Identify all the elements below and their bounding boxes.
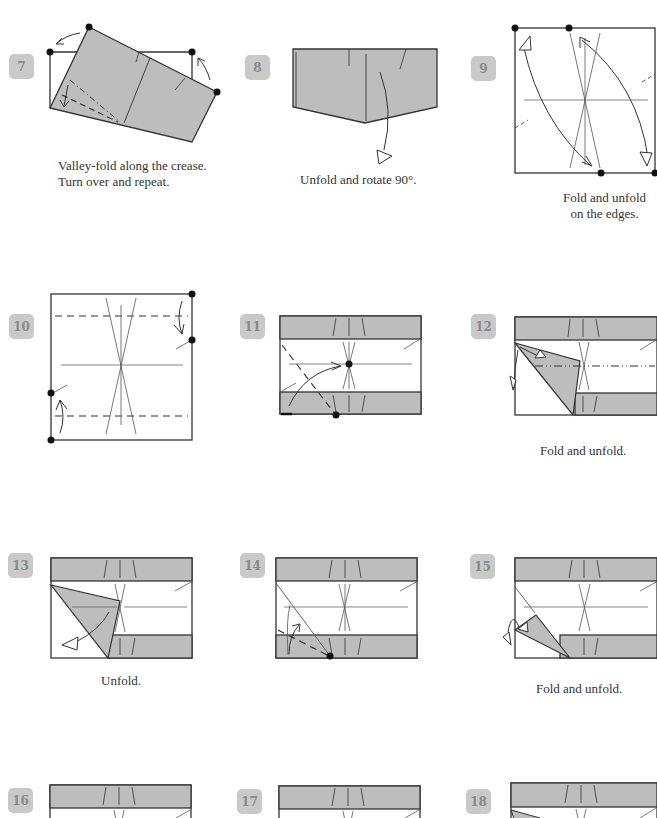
step-caption: Fold and unfold on the edges. [563, 190, 646, 222]
step-number-badge: 10 [9, 314, 34, 339]
caption-line: Unfold. [101, 673, 141, 689]
caption-line: on the edges. [563, 206, 646, 222]
step-caption: Unfold and rotate 90°. [300, 172, 416, 188]
step-number-badge: 15 [470, 554, 495, 579]
step-number-badge: 9 [471, 56, 496, 81]
caption-line: Unfold and rotate 90°. [300, 172, 416, 188]
step-number-badge: 11 [240, 314, 265, 339]
caption-line: Fold and unfold [563, 190, 646, 206]
step-caption: Fold and unfold. [536, 681, 622, 697]
caption-line: Fold and unfold. [540, 443, 626, 459]
step-number-badge: 16 [8, 788, 33, 813]
step-number-badge: 14 [240, 553, 265, 578]
step-caption: Fold and unfold. [540, 443, 626, 459]
step-number-badge: 12 [471, 314, 496, 339]
step-number-badge: 17 [237, 789, 262, 814]
step-number-badge: 18 [466, 789, 491, 814]
step-number-badge: 8 [245, 55, 270, 80]
step-18-diagram [0, 0, 200, 60]
step-caption: Unfold. [101, 673, 141, 689]
step-number-badge: 13 [8, 553, 33, 578]
caption-line: Fold and unfold. [536, 681, 622, 697]
